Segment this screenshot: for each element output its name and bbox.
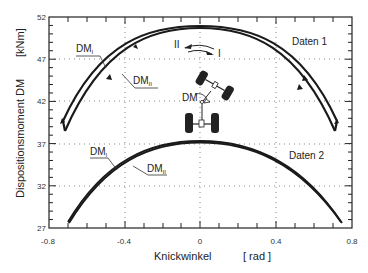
label-dir-ii: II [174, 39, 180, 50]
y-tick-42: 42 [37, 97, 46, 106]
x-tick-0: 0 [198, 237, 203, 246]
y-tick-32: 32 [37, 182, 46, 191]
svg-text:DMII: DMII [133, 75, 152, 87]
svg-text:DMI: DMI [76, 43, 94, 55]
dm-text: DM [147, 163, 163, 174]
dm-sub: I [92, 49, 94, 55]
y-tick-27: 27 [37, 224, 46, 233]
annotation-dm-ii-daten2: DMII [133, 163, 167, 175]
dm-text: DM [90, 146, 106, 157]
x-tick-0.4: 0.4 [270, 237, 282, 246]
dm-text: DM [133, 75, 149, 86]
y-axis-title: Dispositionsmoment DM [14, 79, 26, 198]
label-daten1: Daten 1 [292, 36, 327, 47]
dm-sub: II [163, 169, 167, 175]
dm-sub: II [149, 81, 153, 87]
y-axis-unit: [kNm] [14, 28, 26, 57]
label-daten2: Daten 2 [289, 150, 324, 161]
x-tick-0.8: 0.8 [346, 237, 358, 246]
label-dir-i: I [218, 48, 221, 59]
annotation-dm-i-daten2: DMI [90, 146, 117, 170]
y-tick-52: 52 [37, 13, 46, 22]
chart: 52 47 42 37 32 27 -0.8 -0.4 0 0.4 0.8 Kn… [0, 0, 368, 273]
rotation-indicator: II I [174, 39, 221, 59]
dm-text: DM [76, 43, 92, 54]
x-tick-neg0.4: -0.4 [117, 237, 131, 246]
dm-sub: I [106, 152, 108, 158]
y-tick-37: 37 [37, 140, 46, 149]
front-axle [195, 69, 235, 101]
svg-text:DMI: DMI [90, 146, 108, 158]
svg-text:DMII: DMII [147, 163, 166, 175]
x-tick-labels: -0.8 -0.4 0 0.4 0.8 [41, 237, 358, 246]
vehicle-illustration: DM [182, 69, 235, 133]
x-axis-unit: [ rad ] [243, 250, 271, 262]
y-tick-47: 47 [37, 55, 46, 64]
x-axis-title: Knickwinkel [154, 250, 211, 262]
arrow-down-right [297, 84, 303, 90]
label-vehicle-dm: DM [182, 92, 198, 103]
y-tick-labels: 52 47 42 37 32 27 [37, 13, 46, 233]
x-tick-neg0.8: -0.8 [41, 237, 55, 246]
arrow-down-left [106, 74, 112, 80]
annotation-dm-ii-daten1: DMII [122, 74, 158, 88]
